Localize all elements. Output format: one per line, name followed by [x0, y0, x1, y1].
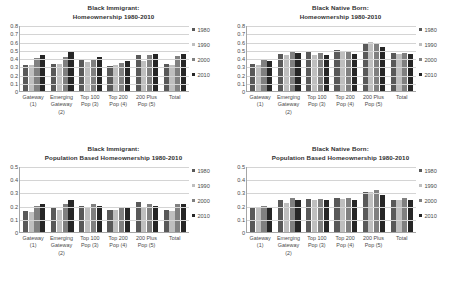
bar: [256, 65, 261, 91]
bar: [34, 58, 39, 91]
bar: [63, 57, 68, 91]
legend-item: 2000: [419, 193, 453, 208]
y-axis: 00.10.20.30.40.5: [229, 167, 245, 233]
bar: [374, 190, 379, 232]
legend-label: 2000: [424, 198, 436, 204]
y-axis-tick-label: 0.2: [10, 73, 18, 79]
plot-area: [19, 167, 189, 233]
legend-swatch: [192, 214, 195, 217]
y-axis-tick-label: 0.7: [237, 31, 245, 37]
y-axis-tick-label: 0.4: [237, 177, 245, 183]
bar: [363, 192, 368, 232]
bar: [306, 199, 311, 232]
gridline: [247, 67, 416, 68]
gridline: [20, 220, 189, 221]
bar: [147, 55, 152, 91]
y-axis-tick-label: 0.2: [10, 204, 18, 210]
legend-item: 1980: [419, 22, 453, 37]
legend-swatch: [419, 58, 422, 61]
legend-swatch: [192, 43, 195, 46]
bar-group: [161, 167, 189, 232]
gridline: [20, 84, 189, 85]
bar: [34, 206, 39, 232]
gridline: [247, 43, 416, 44]
bar: [278, 200, 283, 232]
gridline: [20, 43, 189, 44]
bar: [340, 199, 345, 232]
y-axis-tick-label: 0.1: [10, 217, 18, 223]
legend-label: 1980: [424, 27, 436, 33]
bar: [29, 212, 34, 232]
bar: [261, 206, 266, 232]
x-axis-label: Gateway(1): [19, 94, 47, 116]
bar: [295, 200, 300, 232]
legend-swatch: [419, 199, 422, 202]
chart-title: Black Immigrant: Population Based Homeow…: [0, 144, 227, 162]
y-axis-tick-label: 0: [15, 89, 18, 95]
y-axis-tick-label: 0.5: [10, 48, 18, 54]
legend-label: 1990: [197, 42, 209, 48]
bar: [136, 55, 141, 91]
y-axis: 00.10.20.30.40.50.60.70.8: [229, 26, 245, 92]
chart-title-line1: Black Immigrant:: [88, 4, 140, 11]
chart-title-line1: Black Native Born:: [312, 4, 369, 11]
y-axis-tick-label: 0.3: [237, 190, 245, 196]
x-axis-label: EmergingGateway(2): [274, 94, 302, 116]
bar: [68, 200, 73, 232]
bar-groups: [247, 167, 416, 232]
legend-item: 2010: [419, 208, 453, 223]
x-axis-label: Top 100Pop (3): [76, 94, 104, 116]
bar: [306, 51, 311, 91]
chart-title: Black Native Born: Homeownership 1980-20…: [227, 3, 454, 21]
gridline: [247, 84, 416, 85]
gridline: [247, 180, 416, 181]
y-axis-tick-label: 0.3: [237, 64, 245, 70]
legend-swatch: [192, 184, 195, 187]
y-axis-tick-label: 0: [242, 230, 245, 236]
x-axis-label: EmergingGateway(2): [47, 94, 75, 116]
x-axis-label: EmergingGateway(2): [274, 235, 302, 257]
bar-group: [247, 167, 275, 232]
legend-item: 1980: [192, 22, 226, 37]
x-axis-label: Total: [388, 94, 416, 116]
x-axis-labels: Gateway(1)EmergingGateway(2)Top 100Pop (…: [246, 235, 416, 257]
bar-group: [48, 167, 76, 232]
legend-label: 1990: [424, 42, 436, 48]
legend: 1980199020002010: [419, 163, 453, 223]
bar: [408, 200, 413, 232]
y-axis-tick-label: 0.3: [10, 64, 18, 70]
gridline: [20, 180, 189, 181]
y-axis-tick-label: 0.8: [237, 23, 245, 29]
legend: 1980199020002010: [192, 163, 226, 223]
y-axis-tick-label: 0.1: [237, 217, 245, 223]
legend-label: 2010: [197, 213, 209, 219]
legend-swatch: [192, 199, 195, 202]
bar-group: [76, 167, 104, 232]
legend-swatch: [419, 73, 422, 76]
bar-group: [303, 167, 331, 232]
x-axis-label: Total: [388, 235, 416, 257]
y-axis-tick-label: 0.1: [10, 81, 18, 87]
legend-item: 2000: [192, 193, 226, 208]
y-axis: 00.10.20.30.40.5: [2, 167, 18, 233]
chart-title: Black Native Born: Population Based Home…: [227, 144, 454, 162]
chart-title: Black Immigrant: Homeownership 1980-2010: [0, 3, 227, 21]
gridline: [20, 51, 189, 52]
x-axis-label: EmergingGateway(2): [47, 235, 75, 257]
bar: [334, 50, 339, 91]
legend-item: 2010: [192, 208, 226, 223]
bar: [147, 204, 152, 232]
chart-title-line1: Black Immigrant:: [88, 145, 140, 152]
chart-panel-top-left: Black Immigrant: Homeownership 1980-2010…: [0, 0, 227, 141]
legend-label: 2000: [424, 57, 436, 63]
bar-groups: [20, 167, 189, 232]
legend-item: 2010: [192, 67, 226, 82]
legend-label: 1990: [424, 183, 436, 189]
legend-swatch: [192, 28, 195, 31]
y-axis-tick-label: 0: [242, 89, 245, 95]
gridline: [20, 26, 189, 27]
y-axis-tick-label: 0.6: [10, 40, 18, 46]
legend-swatch: [419, 169, 422, 172]
legend-item: 2000: [419, 52, 453, 67]
gridline: [20, 76, 189, 77]
